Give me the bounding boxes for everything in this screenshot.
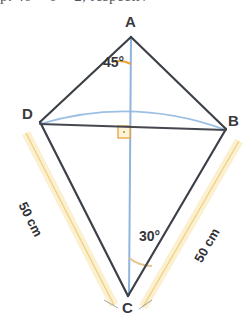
angle-label-a: 45° — [103, 55, 124, 69]
angle-label-c: 30° — [139, 229, 160, 243]
edge-bc — [128, 129, 226, 296]
vertex-label-d: D — [22, 106, 33, 121]
right-angle-dot — [123, 131, 125, 133]
diagonal-ac — [129, 38, 131, 296]
edge-ad — [40, 37, 131, 122]
edge-ab — [131, 37, 226, 129]
highlight-band-bc-edge — [143, 141, 239, 307]
vertex-label-a: A — [125, 14, 136, 29]
edge-dc — [40, 122, 128, 296]
vertex-label-b: B — [228, 113, 239, 128]
figure-canvas: p. 40 = 0 = 2, respectiv A B C D — [0, 0, 251, 322]
kite-diagram-svg — [0, 0, 251, 322]
diagonal-db — [40, 124, 226, 130]
vertex-label-c: C — [122, 300, 133, 315]
